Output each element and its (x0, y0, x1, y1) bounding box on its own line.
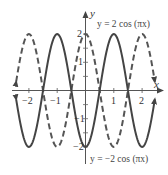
plot-area: y x −2 −1 1 2 2 1 −1 −2 y = 2 cos (πx) y… (0, 0, 168, 175)
x-tick-label: −1 (50, 95, 61, 106)
y-tick-label: 1 (78, 56, 83, 67)
x-axis-label: x (153, 78, 159, 90)
cosine-graph: y x −2 −1 1 2 2 1 −1 −2 y = 2 cos (πx) y… (0, 0, 168, 175)
x-tick-label: 1 (111, 95, 116, 106)
x-tick-label: 2 (139, 95, 144, 106)
y-tick-label: −2 (73, 141, 84, 152)
y-tick-label: −1 (74, 113, 85, 124)
equation-label-top: y = 2 cos (πx) (97, 19, 150, 30)
equation-label-bottom: y = −2 cos (πx) (90, 154, 148, 165)
y-tick-label: 2 (77, 28, 82, 39)
x-tick-label: −2 (22, 95, 33, 106)
y-axis-label: y (89, 7, 95, 19)
